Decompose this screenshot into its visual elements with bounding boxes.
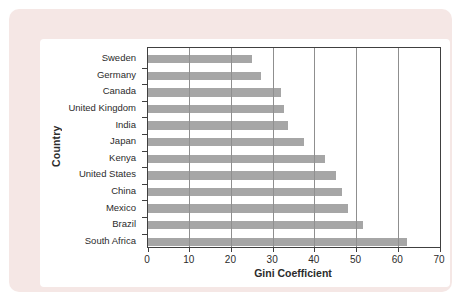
bar-china [148,188,342,196]
category-label-south-africa: South Africa [40,233,141,249]
gridline-40 [314,48,315,247]
x-axis-tick-70 [440,247,441,252]
x-tick-label-60: 60 [392,254,403,265]
bar-brazil [148,221,363,229]
x-tick-label-20: 20 [225,254,236,265]
x-axis-tick-20 [231,247,232,252]
bar-mexico [148,204,348,212]
category-label-sweden: Sweden [40,50,141,66]
x-axis-title: Gini Coefficient [147,267,439,279]
category-label-united-states: United States [40,166,141,182]
bar-canada [148,88,281,96]
category-label-japan: Japan [40,133,141,149]
x-tick-label-50: 50 [350,254,361,265]
gridline-20 [231,48,232,247]
chart-card-frame: Country SwedenGermanyCanadaUnited Kingdo… [9,9,452,292]
chart-card: Country SwedenGermanyCanadaUnited Kingdo… [40,39,450,287]
y-axis-category-labels: SwedenGermanyCanadaUnited KingdomIndiaJa… [40,47,141,246]
x-axis-tick-60 [398,247,399,252]
x-tick-label-30: 30 [267,254,278,265]
x-tick-label-10: 10 [183,254,194,265]
bar-south-africa [148,238,407,246]
y-axis-tick [142,68,147,69]
gridline-50 [356,48,357,247]
gridline-60 [398,48,399,247]
x-axis-tick-0 [148,247,149,252]
y-axis-tick [142,234,147,235]
y-axis-tick [142,217,147,218]
bar-germany [148,72,261,80]
bar-united-states [148,171,336,179]
category-label-canada: Canada [40,83,141,99]
category-label-united-kingdom: United Kingdom [40,100,141,116]
x-axis-tick-30 [273,247,274,252]
category-label-india: India [40,117,141,133]
plot-area [147,47,441,248]
y-axis-tick [142,151,147,152]
category-label-kenya: Kenya [40,150,141,166]
y-axis-tick [142,117,147,118]
x-axis-tick-10 [189,247,190,252]
bar-kenya [148,155,325,163]
y-axis-tick [142,200,147,201]
x-axis-tick-40 [314,247,315,252]
x-axis-tick-50 [356,247,357,252]
y-axis-tick [142,134,147,135]
bar-japan [148,138,304,146]
x-axis-tick-labels: 010203040506070 [147,254,439,266]
category-label-brazil: Brazil [40,216,141,232]
y-axis-tick [142,84,147,85]
category-label-mexico: Mexico [40,200,141,216]
gridline-30 [273,48,274,247]
category-label-germany: Germany [40,67,141,83]
y-axis-tick [142,101,147,102]
bar-united-kingdom [148,105,284,113]
x-tick-label-40: 40 [308,254,319,265]
y-axis-tick [142,167,147,168]
gridline-10 [189,48,190,247]
x-tick-label-0: 0 [144,254,150,265]
y-axis-tick [142,184,147,185]
category-label-china: China [40,183,141,199]
bar-india [148,121,288,129]
x-tick-label-70: 70 [433,254,444,265]
bar-sweden [148,55,252,63]
